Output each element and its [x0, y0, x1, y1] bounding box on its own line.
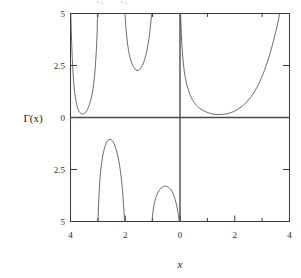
- gamma-branch-neg-0-1: [152, 186, 179, 221]
- gamma-function-figure: 5 2.5 0 2.5 5 4 2 0 2 4 Γ(x) x: [0, 0, 301, 278]
- x-tick-label-4: 4: [287, 230, 292, 240]
- x-axis-major-ticks: [71, 216, 290, 222]
- gamma-branch-neg-1-2: [125, 14, 152, 71]
- y-tick-label-4: 5: [61, 217, 66, 227]
- y-tick-label-1: 2.5: [54, 61, 66, 71]
- x-axis-title: x: [177, 258, 183, 270]
- gamma-function-plot: 5 2.5 0 2.5 5 4 2 0 2 4 Γ(x) x: [0, 0, 301, 278]
- gamma-branch-positive: [181, 14, 280, 115]
- y-axis-title: Γ(x): [23, 112, 43, 125]
- gamma-branch-neg-2-3: [98, 139, 125, 221]
- y-tick-labels: 5 2.5 0 2.5 5: [54, 9, 66, 227]
- x-tick-label-3: 2: [233, 230, 238, 240]
- gamma-branch-neg-3-4: [71, 14, 98, 114]
- y-tick-label-3: 2.5: [54, 165, 66, 175]
- x-tick-label-1: 2: [123, 230, 128, 240]
- y-tick-label-2: 0: [61, 113, 66, 123]
- x-tick-labels: 4 2 0 2 4: [68, 230, 292, 240]
- x-tick-label-2: 0: [178, 230, 183, 240]
- y-tick-label-0: 5: [61, 9, 66, 19]
- x-tick-label-0: 4: [68, 230, 73, 240]
